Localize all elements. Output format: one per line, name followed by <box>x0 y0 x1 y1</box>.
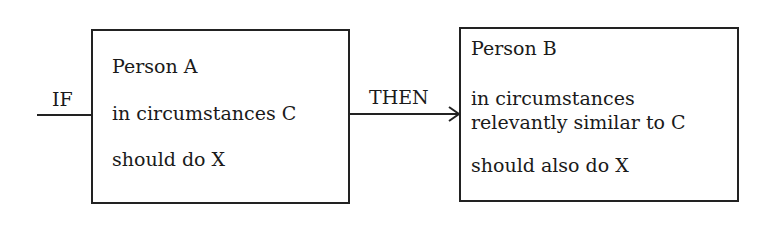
box-b-line-3: relevantly similar to C <box>471 111 686 133</box>
box-b-line-4: should also do X <box>471 154 629 176</box>
then-label: THEN <box>369 86 429 108</box>
box-b-line-2: in circumstances <box>471 87 635 109</box>
box-b-line-1: Person B <box>471 37 557 59</box>
